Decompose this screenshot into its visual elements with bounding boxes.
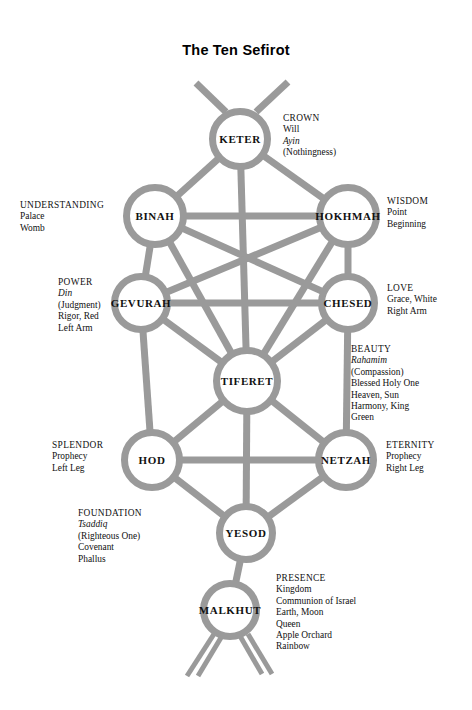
gloss-line: Tsaddiq [78, 519, 142, 530]
branch-crown-branch-right [256, 82, 288, 112]
node-label-keter: KETER [219, 133, 261, 145]
gloss-line: Prophecy [52, 451, 103, 462]
path-tiferet-hod [174, 401, 224, 442]
gloss-line: Right Leg [386, 463, 435, 474]
gloss-line: Grace, White [387, 294, 437, 305]
gloss-line: Right Arm [387, 306, 437, 317]
gloss-line: Will [283, 124, 336, 135]
gloss-beauty: BEAUTYRahamim(Compassion)Blessed Holy On… [351, 344, 419, 424]
gloss-line: Rigor, Red [58, 311, 101, 322]
gloss-line: Beginning [387, 219, 428, 230]
nodes-layer [115, 112, 377, 637]
node-label-gevurah: GEVURAH [111, 297, 171, 309]
gloss-line: UNDERSTANDING [20, 200, 104, 211]
node-label-malkhut: MALKHUT [199, 604, 261, 616]
gloss-line: CROWN [283, 113, 336, 124]
gloss-line: Green [351, 412, 419, 423]
node-label-hod: HOD [139, 454, 166, 466]
gloss-line: Blessed Holy One [351, 378, 419, 389]
gloss-line: Covenant [78, 542, 142, 553]
gloss-wisdom: WISDOMPointBeginning [387, 196, 428, 230]
path-binah-tiferet [169, 241, 232, 354]
gloss-foundation: FOUNDATIONTsaddiq(Righteous One)Covenant… [78, 508, 142, 565]
node-label-tiferet: TIFERET [221, 375, 274, 387]
gloss-line: Rainbow [276, 641, 356, 652]
gloss-line: Apple Orchard [276, 630, 356, 641]
gloss-line: WISDOM [387, 196, 428, 207]
path-keter-hokhmah [263, 155, 325, 199]
path-binah-gevurah [145, 245, 150, 277]
roots-layer [187, 634, 272, 676]
gloss-splendor: SPLENDORProphecyLeft Leg [52, 440, 103, 474]
path-gevurah-hod [143, 330, 150, 432]
sefirot-diagram-page: The Ten Sefirot KETERBINAHHOKHMAHGEVURAH… [0, 0, 472, 710]
gloss-line: POWER [58, 277, 101, 288]
gloss-line: Din [58, 288, 101, 299]
gloss-line: Womb [20, 223, 104, 234]
path-keter-binah [176, 158, 219, 197]
branch-crown-branch-left [196, 83, 226, 112]
gloss-line: Left Leg [52, 463, 103, 474]
gloss-line: Kingdom [276, 584, 356, 595]
gloss-line: SPLENDOR [52, 440, 103, 451]
path-tiferet-netzah [271, 400, 324, 442]
gloss-line: Queen [276, 619, 356, 630]
gloss-power: POWERDin(Judgment)Rigor, RedLeft Arm [58, 277, 101, 334]
gloss-line: ETERNITY [386, 440, 435, 451]
gloss-crown: CROWNWillAyin(Nothingness) [283, 113, 336, 159]
gloss-line: PRESENCE [276, 573, 356, 584]
gloss-line: Harmony, King [351, 401, 419, 412]
gloss-line: Heaven, Sun [351, 390, 419, 401]
path-chesed-netzah [346, 330, 347, 432]
gloss-love: LOVEGrace, WhiteRight Arm [387, 283, 437, 317]
gloss-line: Prophecy [386, 451, 435, 462]
path-hod-yesod [174, 477, 225, 516]
path-netzah-yesod [268, 477, 324, 518]
crown-branches-layer [196, 82, 288, 112]
gloss-line: FOUNDATION [78, 508, 142, 519]
node-label-netzah: NETZAH [321, 454, 371, 466]
gloss-eternity: ETERNITYProphecyRight Leg [386, 440, 435, 474]
node-label-chesed: CHESED [324, 297, 373, 309]
node-label-yesod: YESOD [226, 527, 267, 539]
gloss-line: Ayin [283, 136, 336, 147]
path-yesod-malkhut [235, 559, 240, 583]
gloss-line: Phallus [78, 554, 142, 565]
node-label-hokhmah: HOKHMAH [315, 210, 380, 222]
gloss-line: Communion of Israel [276, 596, 356, 607]
gloss-line: Earth, Moon [276, 607, 356, 618]
gloss-line: (Compassion) [351, 367, 419, 378]
gloss-line: (Judgment) [58, 300, 101, 311]
gloss-understanding: UNDERSTANDINGPalaceWomb [20, 200, 104, 234]
gloss-line: Rahamim [351, 355, 419, 366]
gloss-line: Point [387, 207, 428, 218]
gloss-presence: PRESENCEKingdomCommunion of IsraelEarth,… [276, 573, 356, 653]
node-label-binah: BINAH [135, 210, 174, 222]
gloss-line: (Righteous One) [78, 531, 142, 542]
gloss-line: BEAUTY [351, 344, 419, 355]
gloss-line: Palace [20, 211, 104, 222]
gloss-line: (Nothingness) [283, 147, 336, 158]
gloss-line: LOVE [387, 283, 437, 294]
gloss-line: Left Arm [58, 323, 101, 334]
